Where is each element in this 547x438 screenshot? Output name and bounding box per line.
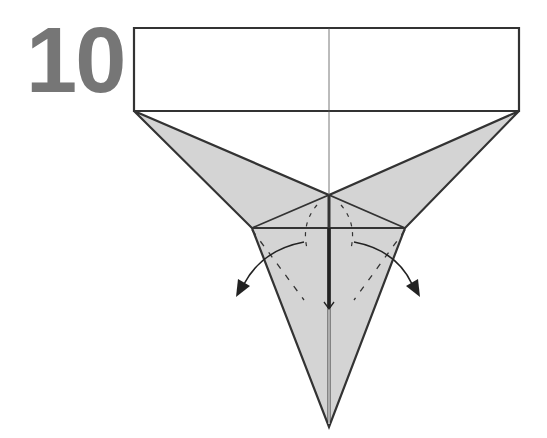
paper-body [134, 111, 519, 427]
arrow-right-head [406, 279, 420, 297]
paper-top-panel [134, 28, 519, 111]
arrow-left-head [236, 279, 250, 297]
origami-diagram [0, 0, 547, 438]
